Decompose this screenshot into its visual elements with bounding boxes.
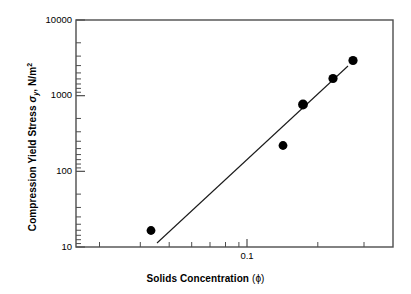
data-markers [147,56,358,235]
x-axis-title-wrap: Solids Concentration (ϕ) [0,268,411,286]
data-point [328,74,337,83]
y-minor-ticks [76,43,81,244]
y-tick-label-1000: 1000 [28,89,72,100]
axes-border [76,20,393,247]
x-axis-title-paren-close: ) [261,273,264,284]
plot-frame [76,20,393,247]
fit-line [157,66,348,243]
data-point [298,100,308,110]
y-tick-label-10000: 10000 [28,14,72,25]
chart-figure: 10000 1000 100 10 0.1 Solids Concentrati… [0,0,411,294]
x-axis-title: Solids Concentration (ϕ) [146,273,264,284]
y-major-ticks [76,20,85,247]
y-tick-label-100: 100 [28,165,72,176]
x-axis-title-text: Solids Concentration [146,273,249,284]
x-tick-label-0.1: 0.1 [227,250,267,261]
x-minor-ticks [100,242,365,247]
data-point [279,141,288,150]
data-point [147,226,156,235]
data-point [348,56,357,65]
y-tick-label-10: 10 [28,241,72,252]
